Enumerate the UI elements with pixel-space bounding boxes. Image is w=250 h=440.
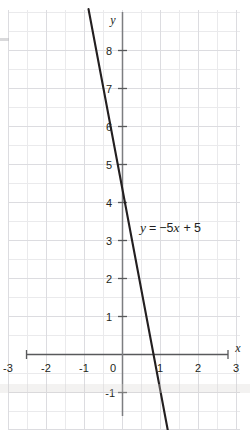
y-tick-label: 4 — [106, 197, 112, 209]
graph-figure: -3 -2 -1 0 1 2 3 8 7 6 5 4 3 2 1 -1 y x … — [0, 0, 250, 440]
x-tick-label: 2 — [195, 362, 201, 374]
equation-x-symbol: x — [173, 220, 180, 235]
equation-plus: + — [184, 221, 191, 235]
y-tick-label: 5 — [106, 159, 112, 171]
y-tick-label: 8 — [106, 45, 112, 57]
scan-artifacts — [0, 38, 250, 440]
y-tick-label: 3 — [106, 235, 112, 247]
y-axis-label: y — [109, 13, 116, 27]
x-tick-label: 3 — [233, 362, 239, 374]
x-tick-label: -1 — [79, 362, 89, 374]
equation-y-symbol: y — [138, 220, 146, 235]
equation-equals: = — [149, 221, 156, 235]
y-tick-label: 2 — [106, 273, 112, 285]
equation-slope: −5 — [159, 221, 173, 235]
x-tick-labels: -3 -2 -1 0 1 2 3 — [3, 362, 239, 374]
y-tick-label: 7 — [106, 83, 112, 95]
equation-annotation: y=−5x+5 — [138, 220, 201, 235]
x-tick-label: 0 — [110, 362, 116, 374]
coordinate-plane-svg: -3 -2 -1 0 1 2 3 8 7 6 5 4 3 2 1 -1 y x … — [0, 0, 250, 440]
equation-intercept: 5 — [194, 221, 201, 235]
y-tick-label: 1 — [106, 311, 112, 323]
x-tick-label: -2 — [41, 362, 51, 374]
x-tick-label: -3 — [3, 362, 13, 374]
x-axis-label: x — [234, 341, 241, 355]
